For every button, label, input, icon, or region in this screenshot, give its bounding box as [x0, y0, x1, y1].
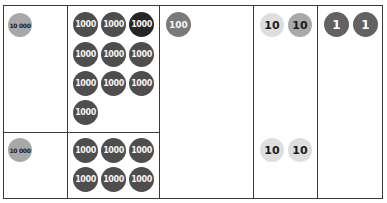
disc-label: 1000 [103, 79, 124, 88]
disc-10000: 10 000 [8, 13, 32, 37]
disc-label: 1000 [103, 146, 124, 155]
disc-1000: 1000 [73, 138, 98, 163]
disc-10: 10 [260, 13, 284, 37]
row-divider [4, 132, 159, 133]
disc-1000: 1000 [129, 167, 154, 192]
disc-label: 1000 [131, 50, 152, 59]
disc-label: 10 [292, 144, 307, 157]
disc-label: 1000 [75, 79, 96, 88]
disc-1000: 1000 [101, 138, 126, 163]
column-divider [317, 6, 318, 198]
disc-10: 10 [288, 13, 312, 37]
disc-10: 10 [288, 138, 312, 162]
disc-label: 1000 [75, 146, 96, 155]
disc-label: 1000 [75, 108, 96, 117]
disc-label: 1000 [75, 20, 96, 29]
disc-1000: 1000 [129, 71, 154, 96]
disc-1000: 1000 [129, 42, 154, 67]
column-divider [159, 6, 160, 198]
disc-1000: 1000 [73, 100, 98, 125]
disc-1000: 1000 [73, 167, 98, 192]
disc-1000: 1000 [129, 138, 154, 163]
disc-10: 10 [260, 138, 284, 162]
disc-1: 1 [324, 12, 349, 37]
disc-label: 1000 [131, 146, 152, 155]
column-divider [67, 6, 68, 198]
disc-label: 1000 [131, 20, 152, 29]
disc-label: 1000 [75, 175, 96, 184]
disc-1000: 1000 [101, 167, 126, 192]
disc-label: 1000 [103, 175, 124, 184]
disc-label: 1000 [131, 175, 152, 184]
disc-label: 10 [292, 19, 307, 32]
disc-1000: 1000 [101, 42, 126, 67]
disc-label: 1000 [75, 50, 96, 59]
disc-label: 100 [169, 20, 188, 30]
disc-label: 10 [264, 19, 279, 32]
disc-label: 1000 [131, 79, 152, 88]
disc-1000: 1000 [101, 12, 126, 37]
disc-10000: 10 000 [8, 138, 32, 162]
disc-label: 1 [332, 18, 340, 32]
disc-label: 1000 [103, 20, 124, 29]
disc-label: 10 000 [9, 22, 30, 29]
disc-1000: 1000 [129, 12, 154, 37]
disc-label: 1000 [103, 50, 124, 59]
disc-label: 10 000 [9, 147, 30, 154]
disc-1: 1 [353, 12, 378, 37]
disc-1000: 1000 [73, 42, 98, 67]
place-value-chart [3, 5, 383, 199]
disc-label: 10 [264, 144, 279, 157]
disc-label: 1 [361, 18, 369, 32]
disc-1000: 1000 [73, 12, 98, 37]
disc-1000: 1000 [73, 71, 98, 96]
disc-100: 100 [166, 12, 191, 37]
column-divider [253, 6, 254, 198]
disc-1000: 1000 [101, 71, 126, 96]
